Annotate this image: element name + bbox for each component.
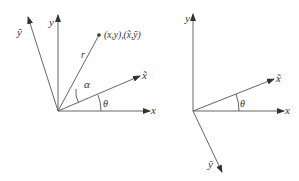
theta-angle-arc bbox=[236, 94, 239, 111]
y-tilde-axis-arrow bbox=[28, 17, 58, 111]
x-tilde-label: x̃ bbox=[141, 69, 148, 81]
theta-angle-arc bbox=[98, 95, 101, 111]
x-label: x bbox=[284, 104, 290, 116]
r-label: r bbox=[81, 49, 85, 60]
coordinate-rotation-figure: x y x̃ ỹ r α θ (x,y),(x̃,ỹ) x y x̃ ỹ θ bbox=[0, 0, 299, 181]
x-label: x bbox=[150, 104, 156, 116]
y-tilde-label: ỹ bbox=[16, 26, 23, 38]
y-label: y bbox=[184, 12, 190, 24]
left-diagram: x y x̃ ỹ r α θ (x,y),(x̃,ỹ) bbox=[16, 15, 156, 116]
alpha-angle-arc bbox=[76, 89, 79, 103]
radius-line bbox=[58, 35, 99, 111]
point-marker bbox=[97, 33, 101, 37]
x-tilde-axis-arrow bbox=[193, 79, 274, 111]
y-label: y bbox=[48, 16, 54, 28]
theta-label: θ bbox=[103, 98, 108, 109]
point-label: (x,y),(x̃,ỹ) bbox=[104, 30, 141, 41]
x-tilde-label: x̃ bbox=[275, 72, 282, 84]
x-tilde-axis-arrow bbox=[58, 76, 140, 111]
right-diagram: x y x̃ ỹ θ bbox=[184, 12, 290, 172]
theta-label: θ bbox=[240, 98, 245, 109]
y-tilde-label: ỹ bbox=[207, 158, 214, 170]
alpha-label: α bbox=[84, 78, 90, 90]
